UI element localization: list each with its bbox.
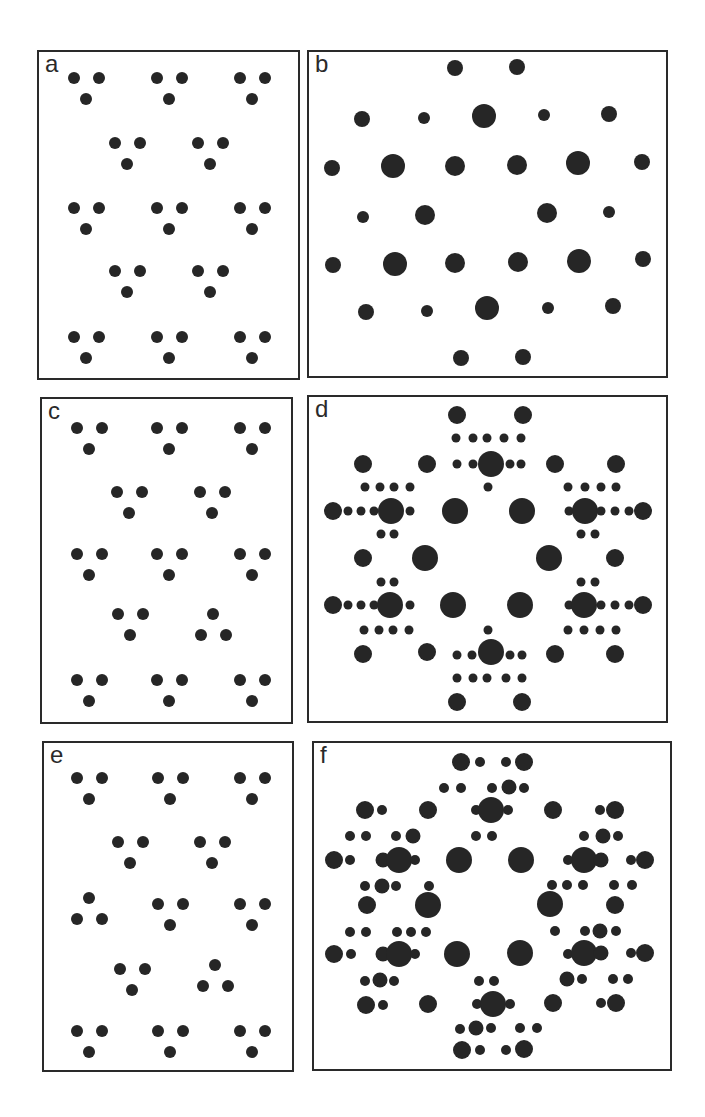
dot	[603, 206, 615, 218]
dot	[509, 498, 535, 524]
dot	[83, 892, 95, 904]
dot-pattern-f	[314, 743, 674, 1073]
dot	[259, 1025, 271, 1037]
dot	[634, 596, 652, 614]
dot	[234, 72, 246, 84]
dot	[377, 592, 403, 618]
dot	[486, 1023, 496, 1033]
dot	[453, 651, 462, 660]
dot	[358, 304, 374, 320]
dot	[478, 639, 504, 665]
dot	[164, 1046, 176, 1058]
dot	[114, 963, 126, 975]
dot	[515, 753, 533, 771]
panel-label-f: f	[320, 743, 327, 767]
dot	[163, 352, 175, 364]
dot	[601, 106, 617, 122]
dot	[505, 999, 515, 1009]
dot	[544, 994, 562, 1012]
dot	[519, 783, 529, 793]
dot	[176, 674, 188, 686]
dot	[487, 783, 497, 793]
dot	[378, 1000, 388, 1010]
dot	[219, 836, 231, 848]
dot	[536, 545, 562, 571]
dot	[164, 919, 176, 931]
dot	[440, 592, 466, 618]
dot	[151, 422, 163, 434]
dot	[259, 202, 271, 214]
dot	[597, 507, 606, 516]
dot	[634, 502, 652, 520]
panel-a: a	[37, 50, 300, 380]
dot	[246, 793, 258, 805]
dot	[453, 674, 462, 683]
dot	[383, 252, 407, 276]
dot	[442, 498, 468, 524]
dot	[121, 158, 133, 170]
dot	[164, 793, 176, 805]
dot	[444, 941, 470, 967]
dot	[360, 881, 370, 891]
dot	[68, 331, 80, 343]
dot	[406, 601, 415, 610]
dot	[625, 601, 634, 610]
dot	[469, 674, 478, 683]
dot	[80, 352, 92, 364]
dot	[593, 924, 608, 939]
dot	[405, 626, 414, 635]
dot	[71, 772, 83, 784]
dot	[377, 578, 386, 587]
dot	[515, 1023, 525, 1033]
dot	[503, 805, 513, 815]
dot	[325, 851, 343, 869]
dot	[580, 926, 590, 936]
dot	[506, 651, 515, 660]
dot	[126, 984, 138, 996]
dot	[591, 530, 600, 539]
dot	[542, 302, 554, 314]
dot-pattern-b	[309, 52, 670, 380]
dot	[611, 926, 621, 936]
dot	[623, 974, 633, 984]
dot	[71, 674, 83, 686]
dot	[93, 202, 105, 214]
dot	[448, 693, 466, 711]
dot	[475, 757, 485, 767]
dot	[518, 651, 527, 660]
dot	[151, 202, 163, 214]
dot	[546, 645, 564, 663]
dot	[483, 674, 492, 683]
dot	[386, 941, 412, 967]
dot	[445, 156, 465, 176]
dot	[636, 851, 654, 869]
dot	[611, 507, 620, 516]
dot	[577, 974, 587, 984]
panel-label-c: c	[48, 399, 60, 423]
dot	[513, 693, 531, 711]
dot	[96, 772, 108, 784]
dot	[96, 548, 108, 560]
dot	[562, 880, 572, 890]
dot	[346, 949, 356, 959]
dot	[137, 836, 149, 848]
dot	[259, 72, 271, 84]
dot	[571, 940, 597, 966]
dot	[571, 592, 597, 618]
dot	[484, 626, 493, 635]
dot	[246, 93, 258, 105]
dot	[344, 507, 353, 516]
dot	[356, 801, 374, 819]
dot-pattern-a	[39, 52, 302, 382]
dot	[517, 434, 526, 443]
dot	[109, 265, 121, 277]
dot	[204, 286, 216, 298]
dot	[452, 434, 461, 443]
dot	[418, 643, 436, 661]
dot	[515, 1040, 533, 1058]
dot	[259, 422, 271, 434]
dot	[594, 853, 609, 868]
dot	[375, 879, 390, 894]
dot	[234, 548, 246, 560]
dot	[596, 998, 606, 1008]
